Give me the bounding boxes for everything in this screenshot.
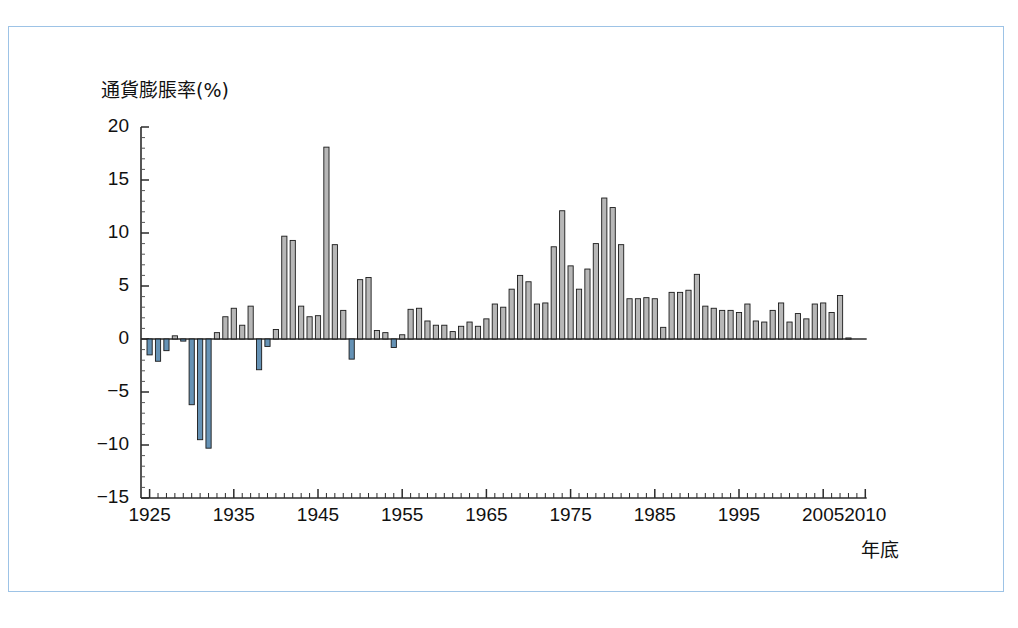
bar[interactable] — [745, 304, 750, 339]
y-tick-label: −10 — [73, 433, 129, 455]
bar[interactable] — [821, 303, 826, 339]
bar[interactable] — [349, 339, 354, 359]
x-tick-label: 1965 — [456, 504, 516, 526]
bar[interactable] — [475, 326, 480, 339]
bar[interactable] — [172, 336, 177, 339]
x-tick-label: 1955 — [372, 504, 432, 526]
bar[interactable] — [400, 335, 405, 339]
y-tick-label: 10 — [73, 221, 129, 243]
figure-frame: 通貨膨脹率(%) 年底 20151050−5−10−15 19251935194… — [8, 26, 1004, 592]
bar[interactable] — [299, 306, 304, 339]
y-tick-label: 0 — [73, 327, 129, 349]
bar[interactable] — [677, 292, 682, 339]
bar[interactable] — [307, 317, 312, 339]
bar[interactable] — [358, 280, 363, 339]
bar[interactable] — [753, 321, 758, 339]
y-tick-label: −5 — [73, 380, 129, 402]
bar[interactable] — [509, 289, 514, 339]
bar[interactable] — [568, 266, 573, 339]
bar[interactable] — [593, 244, 598, 339]
bar[interactable] — [837, 296, 842, 339]
bar[interactable] — [711, 308, 716, 339]
inflation-bar-chart: 通貨膨脹率(%) 年底 20151050−5−10−15 19251935194… — [9, 27, 1005, 593]
bar[interactable] — [812, 304, 817, 339]
bar[interactable] — [644, 298, 649, 339]
bar[interactable] — [290, 240, 295, 339]
bar[interactable] — [383, 333, 388, 339]
bar[interactable] — [416, 308, 421, 339]
bar[interactable] — [181, 339, 186, 341]
bar[interactable] — [779, 303, 784, 339]
bar[interactable] — [602, 198, 607, 339]
bar[interactable] — [551, 247, 556, 339]
bar[interactable] — [543, 303, 548, 339]
bar[interactable] — [198, 339, 203, 440]
bar[interactable] — [492, 304, 497, 339]
bar[interactable] — [804, 319, 809, 339]
bar[interactable] — [736, 313, 741, 340]
bar[interactable] — [770, 310, 775, 339]
bar[interactable] — [324, 147, 329, 339]
bar[interactable] — [669, 292, 674, 339]
bar[interactable] — [635, 299, 640, 339]
bar[interactable] — [425, 321, 430, 339]
y-tick-label: 5 — [73, 274, 129, 296]
bar[interactable] — [846, 338, 851, 339]
bar[interactable] — [223, 317, 228, 339]
bar[interactable] — [795, 314, 800, 339]
bar[interactable] — [240, 325, 245, 339]
x-tick-label: 1985 — [625, 504, 685, 526]
bar[interactable] — [501, 307, 506, 339]
bar[interactable] — [585, 269, 590, 339]
bar[interactable] — [467, 322, 472, 339]
bar[interactable] — [391, 339, 396, 347]
bar[interactable] — [231, 308, 236, 339]
bar[interactable] — [694, 274, 699, 339]
bar[interactable] — [442, 325, 447, 339]
bar[interactable] — [256, 339, 261, 370]
y-tick-label: 20 — [73, 115, 129, 137]
bar[interactable] — [273, 329, 278, 339]
bar[interactable] — [728, 310, 733, 339]
bar[interactable] — [164, 339, 169, 351]
bar[interactable] — [526, 282, 531, 339]
x-tick-label: 1995 — [709, 504, 769, 526]
bar[interactable] — [248, 306, 253, 339]
bar[interactable] — [155, 339, 160, 361]
bar[interactable] — [627, 299, 632, 339]
bar[interactable] — [282, 236, 287, 339]
bar[interactable] — [265, 339, 270, 346]
bar[interactable] — [661, 327, 666, 339]
bar[interactable] — [366, 278, 371, 339]
bars-group — [147, 147, 851, 448]
bar[interactable] — [686, 290, 691, 339]
bar[interactable] — [214, 333, 219, 339]
bar[interactable] — [652, 299, 657, 339]
bar[interactable] — [762, 322, 767, 339]
bar[interactable] — [560, 211, 565, 339]
bar[interactable] — [787, 322, 792, 339]
bar[interactable] — [829, 313, 834, 340]
bar[interactable] — [703, 306, 708, 339]
bar[interactable] — [147, 339, 152, 355]
x-tick-label: 2010 — [835, 504, 895, 526]
bar[interactable] — [374, 331, 379, 339]
bar[interactable] — [619, 245, 624, 339]
bar[interactable] — [610, 208, 615, 339]
bar[interactable] — [433, 325, 438, 339]
bar[interactable] — [484, 319, 489, 339]
bar[interactable] — [576, 289, 581, 339]
bar[interactable] — [315, 316, 320, 339]
bar[interactable] — [450, 332, 455, 339]
bar[interactable] — [534, 304, 539, 339]
bar[interactable] — [189, 339, 194, 405]
bar[interactable] — [206, 339, 211, 448]
y-tick-label: 15 — [73, 168, 129, 190]
bar[interactable] — [459, 326, 464, 339]
bar[interactable] — [408, 309, 413, 339]
bar[interactable] — [332, 245, 337, 339]
x-tick-label: 1975 — [541, 504, 601, 526]
bar[interactable] — [341, 310, 346, 339]
bar[interactable] — [720, 310, 725, 339]
bar[interactable] — [517, 275, 522, 339]
